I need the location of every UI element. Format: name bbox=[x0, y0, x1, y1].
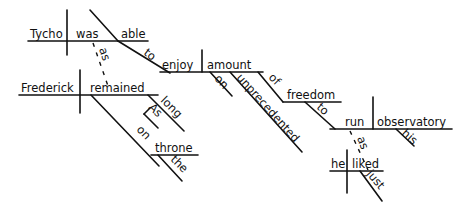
word-remained: remained bbox=[90, 81, 145, 95]
word-as-1: as bbox=[96, 46, 113, 63]
word-on-modifier: on bbox=[212, 72, 232, 92]
word-tycho: Tycho bbox=[29, 27, 63, 41]
word-as-2: as bbox=[354, 134, 372, 151]
word-amount: amount bbox=[207, 58, 252, 72]
sentence-diagram: Tycho was able to enjoy amount on unprec… bbox=[0, 0, 472, 216]
word-observatory: observatory bbox=[377, 115, 446, 129]
word-enjoy: enjoy bbox=[162, 58, 194, 72]
word-freedom: freedom bbox=[287, 88, 335, 102]
word-to: to bbox=[141, 45, 159, 63]
word-run: run bbox=[345, 115, 364, 129]
word-was: was bbox=[76, 27, 98, 41]
word-throne: throne bbox=[155, 141, 193, 155]
word-he: he bbox=[331, 157, 345, 171]
word-frederick: Frederick bbox=[21, 81, 74, 95]
word-on-prep: on bbox=[134, 122, 154, 142]
word-able: able bbox=[121, 27, 146, 41]
